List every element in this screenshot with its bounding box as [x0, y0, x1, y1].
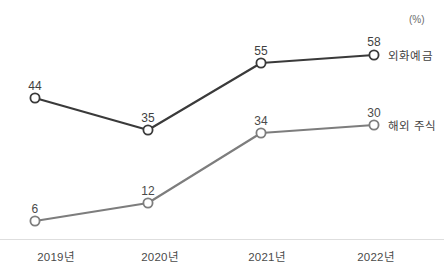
x-tick-label-2019: 2019년: [37, 252, 75, 264]
value-label-series1-2022: 58: [367, 36, 381, 48]
x-tick-label-2021: 2021년: [248, 252, 286, 264]
x-tick-label-2020: 2020년: [141, 252, 179, 264]
data-point-marker: [256, 128, 265, 137]
value-label-series1-2021: 55: [254, 45, 268, 57]
data-point-marker: [256, 58, 265, 67]
data-point-marker: [30, 216, 39, 225]
value-label-series1-2020: 35: [141, 112, 155, 124]
data-point-marker: [30, 93, 39, 102]
data-point-marker: [143, 198, 152, 207]
x-tick-label-2022: 2022년: [357, 252, 395, 264]
line-chart: (%) 44 35 55 58 6 12 34 30 외화예금 해외 주식 20…: [0, 0, 444, 278]
data-point-marker: [143, 125, 152, 134]
data-point-marker: [369, 120, 378, 129]
legend-label-overseas-stocks: 해외 주식: [388, 121, 436, 133]
value-label-series2-2021: 34: [254, 115, 268, 127]
value-label-series1-2019: 44: [28, 80, 42, 92]
value-label-series2-2020: 12: [141, 185, 155, 197]
unit-label: (%): [409, 15, 425, 25]
value-label-series2-2022: 30: [367, 107, 381, 119]
series-line-overseas-stocks: [35, 125, 374, 221]
data-point-marker: [369, 50, 378, 59]
value-label-series2-2019: 6: [32, 203, 39, 215]
series-line-foreign-currency-deposit: [35, 55, 374, 130]
legend-label-foreign-currency-deposit: 외화예금: [388, 51, 433, 63]
